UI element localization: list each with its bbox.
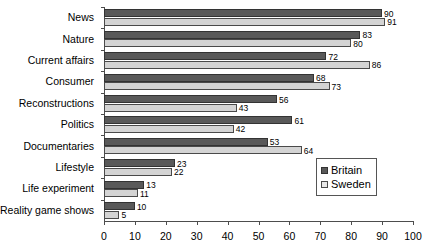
x-axis-tick-label: 30: [191, 231, 203, 242]
bar-value-label: 11: [140, 190, 149, 198]
category-label: Reconstructions: [19, 98, 94, 109]
category-label: Politics: [61, 119, 94, 130]
x-axis-tick-label: 90: [376, 231, 388, 242]
category-label: Reality game shows: [0, 205, 94, 216]
y-axis-tick: [101, 28, 104, 29]
category-label: News: [68, 12, 94, 23]
x-axis-tick: [413, 221, 414, 225]
legend-swatch-icon-britain: [321, 167, 328, 174]
bar-sweden: [104, 189, 138, 197]
x-axis-tick-label: 60: [284, 231, 296, 242]
x-axis-tick-label: 0: [101, 231, 107, 242]
chart-legend: Britain Sweden: [316, 158, 377, 196]
bar-value-label: 68: [316, 74, 325, 82]
bar-value-label: 10: [137, 203, 146, 211]
y-axis-tick: [101, 157, 104, 158]
y-axis-tick: [101, 200, 104, 201]
bar-value-label: 83: [362, 31, 371, 39]
bar-sweden: [104, 104, 237, 112]
y-axis-tick: [101, 50, 104, 51]
x-axis-tick-label: 20: [160, 231, 172, 242]
bar-value-label: 61: [294, 117, 303, 125]
bar-britain: [104, 159, 175, 167]
x-axis-tick-label: 50: [253, 231, 265, 242]
bar-value-label: 42: [236, 125, 245, 133]
category-label: Documentaries: [23, 141, 94, 152]
bar-sweden: [104, 61, 370, 69]
bar-sweden: [104, 125, 234, 133]
bar-chart: NewsNatureCurrent affairsConsumerReconst…: [0, 0, 434, 248]
bar-britain: [104, 138, 268, 146]
bar-britain: [104, 74, 314, 82]
category-label: Nature: [62, 34, 94, 45]
bar-britain: [104, 95, 277, 103]
bar-value-label: 91: [387, 18, 396, 26]
category-label: Lifestyle: [55, 162, 94, 173]
bar-britain: [104, 202, 135, 210]
bar-value-label: 5: [121, 211, 126, 219]
x-axis-tick: [289, 221, 290, 225]
bar-value-label: 86: [372, 61, 381, 69]
bar-britain: [104, 116, 292, 124]
bar-value-label: 22: [174, 168, 183, 176]
bar-value-label: 72: [328, 53, 337, 61]
bar-value-label: 64: [304, 147, 313, 155]
bar-britain: [104, 181, 144, 189]
x-axis-tick: [166, 221, 167, 225]
bar-sweden: [104, 82, 330, 90]
x-axis-tick-label: 40: [222, 231, 234, 242]
y-axis-tick: [101, 114, 104, 115]
legend-item-britain: Britain: [321, 163, 371, 177]
bar-sweden: [104, 18, 385, 26]
bar-sweden: [104, 211, 119, 219]
bar-britain: [104, 52, 326, 60]
bar-value-label: 53: [270, 138, 279, 146]
bar-value-label: 73: [332, 83, 341, 91]
category-axis-labels: NewsNatureCurrent affairsConsumerReconst…: [0, 7, 98, 221]
x-axis-tick: [104, 221, 105, 225]
category-label: Current affairs: [28, 55, 94, 66]
x-axis-tick: [197, 221, 198, 225]
x-axis-tick: [135, 221, 136, 225]
x-axis-tick-label: 80: [345, 231, 357, 242]
bar-value-label: 80: [353, 40, 362, 48]
legend-item-sweden: Sweden: [321, 177, 371, 191]
x-axis-tick-label: 100: [404, 231, 422, 242]
bar-britain: [104, 9, 382, 17]
y-axis-tick: [101, 7, 104, 8]
legend-swatch-icon-sweden: [321, 181, 328, 188]
bar-britain: [104, 31, 360, 39]
bar-sweden: [104, 39, 351, 47]
y-axis-tick: [101, 135, 104, 136]
x-axis-tick: [320, 221, 321, 225]
x-axis-tick: [351, 221, 352, 225]
bar-value-label: 43: [239, 104, 248, 112]
x-axis-tick-label: 70: [314, 231, 326, 242]
x-axis-tick: [228, 221, 229, 225]
bar-sweden: [104, 146, 302, 154]
legend-label-britain: Britain: [331, 164, 362, 176]
x-axis-tick: [382, 221, 383, 225]
y-axis-tick: [101, 93, 104, 94]
legend-label-sweden: Sweden: [331, 178, 371, 190]
x-axis-tick-label: 10: [129, 231, 141, 242]
bar-value-label: 56: [279, 96, 288, 104]
bar-value-label: 13: [146, 181, 155, 189]
bar-sweden: [104, 168, 172, 176]
x-axis-tick: [259, 221, 260, 225]
y-axis-tick: [101, 178, 104, 179]
category-label: Consumer: [46, 76, 94, 87]
category-label: Life experiment: [22, 183, 94, 194]
y-axis-tick: [101, 71, 104, 72]
